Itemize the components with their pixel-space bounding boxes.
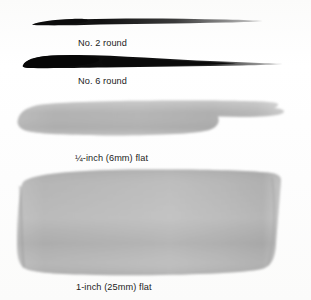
brush-stroke-one-inch-flat	[10, 164, 295, 282]
caption-one-inch-flat: 1-inch (25mm) flat	[76, 282, 152, 292]
brush-stroke-no6-round	[20, 52, 285, 74]
caption-no6-round: No. 6 round	[78, 76, 127, 86]
brush-stroke-no2-round	[30, 14, 265, 30]
caption-quarter-inch-flat: ¼-inch (6mm) flat	[75, 153, 148, 163]
brush-stroke-quarter-inch-flat	[12, 96, 297, 148]
brush-stroke-figure: No. 2 round No. 6 round	[0, 0, 311, 300]
caption-no2-round: No. 2 round	[78, 38, 127, 48]
